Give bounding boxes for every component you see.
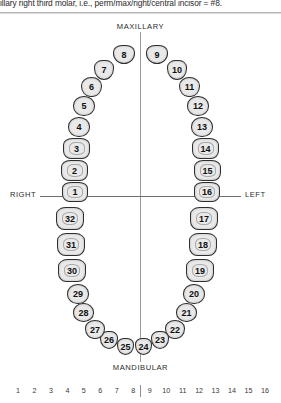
tooth-number-label: 14 xyxy=(200,144,210,154)
tooth-6[interactable]: 6 xyxy=(81,77,102,97)
maxillary-arch-label: MAXILLARY xyxy=(0,22,281,31)
tooth-25[interactable]: 25 xyxy=(117,338,134,355)
tooth-24[interactable]: 24 xyxy=(135,338,152,355)
tooth-number-label: 2 xyxy=(72,166,77,176)
tooth-30[interactable]: 30 xyxy=(58,259,86,282)
tooth-29[interactable]: 29 xyxy=(67,284,89,304)
tooth-number-label: 11 xyxy=(185,82,195,92)
tooth-number-label: 13 xyxy=(197,122,207,132)
tooth-23[interactable]: 23 xyxy=(151,331,169,349)
tooth-number-label: 23 xyxy=(155,335,165,345)
tooth-31[interactable]: 31 xyxy=(57,233,85,256)
tooth-14[interactable]: 14 xyxy=(192,138,219,159)
tooth-number-label: 4 xyxy=(76,122,81,132)
ruler-tick-7: 7 xyxy=(115,386,119,395)
right-side-label: RIGHT xyxy=(10,190,36,199)
tooth-number-label: 32 xyxy=(65,214,75,224)
tooth-28[interactable]: 28 xyxy=(73,303,94,322)
tooth-number-label: 15 xyxy=(202,166,212,176)
tooth-number-label: 10 xyxy=(172,65,182,75)
ruler-tick-11: 11 xyxy=(179,386,186,395)
ruler-midline-divider xyxy=(140,385,141,397)
tooth-number-label: 8 xyxy=(121,50,126,60)
tooth-20[interactable]: 20 xyxy=(183,284,205,304)
ruler-tick-4: 4 xyxy=(65,386,69,395)
tooth-8[interactable]: 8 xyxy=(113,45,135,64)
tooth-number-label: 22 xyxy=(170,325,180,335)
tooth-number-label: 1 xyxy=(72,187,77,197)
ruler-tick-15: 15 xyxy=(245,386,253,395)
tooth-17[interactable]: 17 xyxy=(190,207,218,230)
tooth-21[interactable]: 21 xyxy=(176,303,197,322)
header-divider xyxy=(0,12,281,14)
measurement-ruler: 12345678910111213141516 xyxy=(0,386,281,400)
tooth-number-label: 20 xyxy=(189,289,199,299)
tooth-1[interactable]: 1 xyxy=(62,182,88,202)
tooth-16[interactable]: 16 xyxy=(194,182,220,202)
tooth-number-label: 18 xyxy=(198,240,208,250)
midline-guide xyxy=(140,32,141,362)
tooth-number-label: 16 xyxy=(202,187,212,197)
tooth-number-label: 12 xyxy=(193,101,203,111)
tooth-9[interactable]: 9 xyxy=(146,45,168,64)
tooth-number-label: 7 xyxy=(101,65,106,75)
tooth-12[interactable]: 12 xyxy=(187,96,209,116)
tooth-13[interactable]: 13 xyxy=(191,117,213,137)
dental-chart: illary right third molar, i.e., perm/max… xyxy=(0,0,281,403)
tooth-number-label: 27 xyxy=(90,325,100,335)
tooth-number-label: 29 xyxy=(73,289,83,299)
left-side-label: LEFT xyxy=(245,190,266,199)
tooth-18[interactable]: 18 xyxy=(189,233,217,256)
tooth-number-label: 19 xyxy=(195,266,205,276)
tooth-number-label: 25 xyxy=(120,342,130,352)
tooth-number-label: 9 xyxy=(154,50,159,60)
tooth-7[interactable]: 7 xyxy=(94,60,114,80)
tooth-number-label: 30 xyxy=(67,266,77,276)
ruler-tick-5: 5 xyxy=(82,386,86,395)
tooth-27[interactable]: 27 xyxy=(85,320,105,339)
ruler-tick-1: 1 xyxy=(16,386,20,395)
tooth-11[interactable]: 11 xyxy=(179,77,200,97)
tooth-number-label: 6 xyxy=(89,82,94,92)
ruler-tick-10: 10 xyxy=(162,386,170,395)
ruler-tick-8: 8 xyxy=(131,386,135,395)
tooth-19[interactable]: 19 xyxy=(186,259,214,282)
tooth-number-label: 21 xyxy=(181,308,191,318)
tooth-number-label: 26 xyxy=(104,335,114,345)
tooth-number-label: 24 xyxy=(138,342,148,352)
tooth-number-label: 17 xyxy=(199,214,209,224)
ruler-tick-3: 3 xyxy=(49,386,53,395)
ruler-tick-14: 14 xyxy=(228,386,236,395)
caption-text: illary right third molar, i.e., perm/max… xyxy=(0,0,281,9)
ruler-tick-2: 2 xyxy=(32,386,36,395)
tooth-5[interactable]: 5 xyxy=(73,96,95,116)
tooth-number-label: 5 xyxy=(81,101,86,111)
tooth-2[interactable]: 2 xyxy=(61,160,88,181)
tooth-number-label: 31 xyxy=(66,240,76,250)
tooth-number-label: 28 xyxy=(78,308,88,318)
tooth-3[interactable]: 3 xyxy=(63,138,90,159)
tooth-4[interactable]: 4 xyxy=(68,117,90,137)
ruler-tick-12: 12 xyxy=(195,386,203,395)
ruler-tick-16: 16 xyxy=(261,386,269,395)
tooth-15[interactable]: 15 xyxy=(194,160,221,181)
tooth-number-label: 3 xyxy=(74,144,79,154)
mandibular-arch-label: MANDIBULAR xyxy=(0,363,281,372)
tooth-32[interactable]: 32 xyxy=(56,207,84,230)
ruler-tick-9: 9 xyxy=(148,386,152,395)
ruler-tick-13: 13 xyxy=(212,386,220,395)
ruler-tick-6: 6 xyxy=(98,386,102,395)
